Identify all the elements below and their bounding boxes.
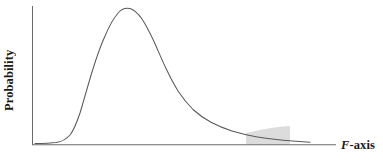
shaded-tail-region (246, 126, 290, 145)
plot-canvas (0, 0, 383, 164)
x-axis-label-suffix: -axis (349, 138, 375, 152)
distribution-curve (35, 8, 310, 143)
f-distribution-figure: Probability F-axis (0, 0, 383, 164)
x-axis-label: F-axis (341, 138, 375, 153)
y-axis-label: Probability (2, 38, 16, 122)
